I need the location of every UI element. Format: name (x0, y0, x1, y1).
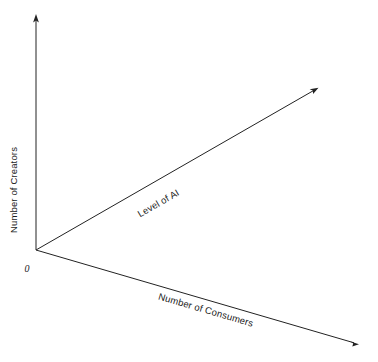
y-axis-group: Number of Creators (8, 14, 39, 250)
x-axis-line (36, 250, 354, 343)
origin-label: 0 (25, 263, 30, 274)
ai-creators-consumers-diagram: Number of Creators Number of Consumers L… (0, 0, 378, 362)
level-of-ai-arrowhead-icon (310, 88, 319, 94)
x-axis-group: Number of Consumers (36, 250, 359, 347)
diagram-svg: Number of Creators Number of Consumers L… (0, 0, 378, 362)
y-axis-label: Number of Creators (8, 147, 19, 233)
level-of-ai-label: Level of AI (136, 187, 181, 219)
x-axis-arrowhead-icon (350, 342, 359, 347)
level-of-ai-line (36, 90, 314, 250)
level-of-ai-ray-group: Level of AI (36, 88, 319, 250)
